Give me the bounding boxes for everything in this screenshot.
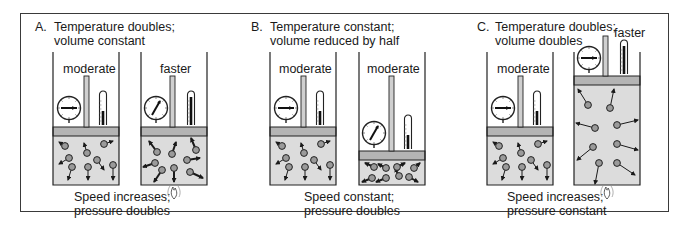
panel-a-cylinder-initial	[53, 52, 119, 185]
panel-c-cylinder-initial	[487, 52, 553, 185]
panel-c-cylinder-expanded	[574, 36, 640, 199]
panel-b-cylinder-compressed	[359, 52, 425, 185]
gas-law-illustration	[0, 0, 687, 233]
panel-a-cylinder-heated	[141, 52, 207, 199]
panel-b-cylinder-initial	[270, 52, 336, 185]
